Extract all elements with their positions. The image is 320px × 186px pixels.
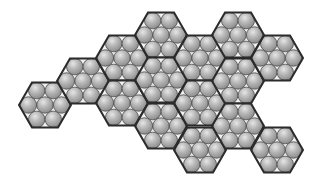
hexagon-group [19,12,303,172]
sphere [192,142,208,158]
sphere [230,118,246,134]
sphere [114,95,130,111]
sphere [192,95,208,111]
sphere [230,73,246,89]
sphere [153,27,169,43]
sphere [230,27,246,43]
sphere [269,50,285,66]
sphere [269,142,285,158]
sphere [192,50,208,66]
sphere [37,97,53,113]
sphere [75,73,91,89]
diagram-canvas [0,0,320,186]
sphere [153,118,169,134]
sphere [153,72,169,88]
hexagon-sphere-tiling-diagram [0,0,320,186]
sphere [114,50,130,66]
